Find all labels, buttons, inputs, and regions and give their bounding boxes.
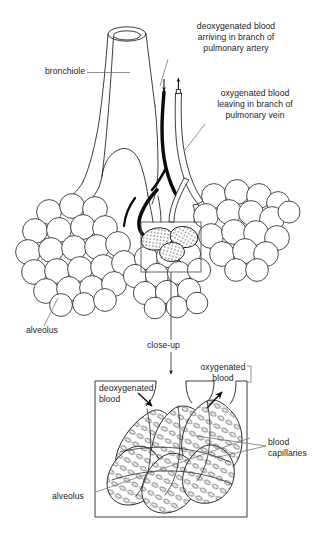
alveoli-diagram: bronchiole deoxygenated blood arriving i… — [0, 0, 318, 536]
label-bronchiole: bronchiole — [45, 66, 85, 77]
label-close-up: close-up — [147, 340, 180, 351]
label-alveolus-closeup: alveolus — [52, 491, 84, 502]
label-oxygenated-pulmonary-vein: oxygenated blood leaving in branch of pu… — [196, 88, 314, 122]
label-blood-capillaries: blood capillaries — [268, 437, 307, 459]
oxygenated-blood-bracket — [247, 366, 251, 382]
label-oxygenated-blood-closeup: oxygenated blood — [200, 362, 246, 384]
label-deoxygenated-blood-closeup: deoxygenated blood — [99, 383, 154, 405]
closeup-entry-vessels — [146, 381, 236, 406]
bronchiole-tube — [83, 27, 155, 182]
label-deoxygenated-pulmonary-artery: deoxygenated blood arriving in branch of… — [160, 21, 312, 55]
label-alveolus-main: alveolus — [26, 325, 58, 336]
alveoli-cluster-left — [16, 194, 137, 317]
arrow-up-icon-vein — [176, 78, 180, 94]
